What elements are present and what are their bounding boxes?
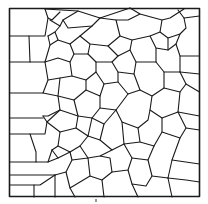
diagram <box>0 0 208 204</box>
cell-network <box>0 0 208 204</box>
